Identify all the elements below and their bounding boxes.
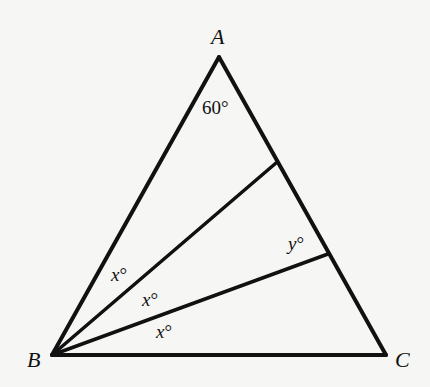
degree-symbol: ° [296,233,304,254]
angle-label-x-lower: x° [155,321,172,342]
side-ac [219,57,386,355]
side-ab [52,57,219,355]
angle-label-apex: 60° [202,97,229,118]
vertex-label-c: C [395,347,410,372]
angle-label-x-upper: x° [110,264,127,285]
vertex-label-b: B [27,347,40,372]
degree-symbol: ° [164,321,172,342]
vertex-label-a: A [209,24,225,49]
triangle-diagram: A B C 60° x° x° x° y° [0,0,430,387]
angle-label-x-middle: x° [141,289,158,310]
angle-label-y: y° [286,233,304,254]
angle-var-y: y [286,233,297,254]
degree-symbol: ° [119,264,127,285]
cevian-lower [52,254,328,355]
degree-symbol: ° [150,289,158,310]
